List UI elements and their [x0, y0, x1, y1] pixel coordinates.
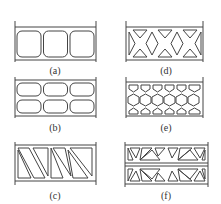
panel-a-label: (a)	[49, 65, 60, 77]
panel-b-label: (b)	[49, 122, 61, 134]
panel-f: (f)	[125, 142, 208, 202]
panel-e-label: (e)	[160, 122, 171, 134]
panel-f-label: (f)	[161, 190, 171, 202]
panel-e: (e)	[126, 77, 203, 134]
sandwich-structures-diagram: (a) (b) (c)	[0, 0, 221, 204]
panel-d-label: (d)	[160, 65, 172, 77]
panel-a: (a)	[15, 21, 96, 77]
panel-c: (c)	[15, 142, 96, 202]
panel-b: (b)	[15, 77, 96, 134]
panel-c-label: (c)	[49, 190, 60, 202]
panel-d: (d)	[126, 21, 203, 77]
